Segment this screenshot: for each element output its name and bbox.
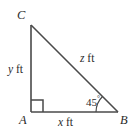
right-triangle-figure: C A B y ft x ft z ft 45° [0, 0, 135, 135]
angle-label-45: 45° [86, 95, 100, 108]
angle-value: 45 [86, 96, 97, 108]
right-angle-marker-icon [31, 100, 43, 112]
vertex-label-a: A [19, 114, 27, 127]
side-unit-x: ft [66, 116, 73, 128]
vertex-label-c: C [17, 9, 25, 22]
side-unit-z: ft [87, 52, 94, 64]
side-label-y: y ft [8, 64, 23, 76]
side-label-x: x ft [58, 117, 73, 129]
side-unit-y: ft [16, 63, 23, 75]
degree-symbol-icon: ° [97, 94, 100, 103]
side-label-z: z ft [80, 53, 94, 65]
vertex-label-b: B [120, 114, 128, 127]
side-hypotenuse-cb [31, 25, 118, 112]
